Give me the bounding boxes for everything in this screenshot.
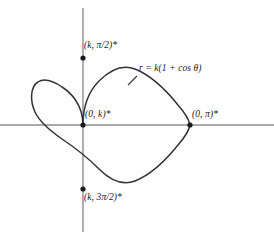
point-cusp-marker — [80, 122, 85, 127]
label-curve-equation: r = k(1 + cos θ) — [139, 64, 202, 74]
label-point-right: (0, π)* — [192, 110, 218, 120]
equation-leader-line — [128, 76, 137, 85]
figure-canvas — [0, 0, 274, 241]
point-top-marker — [80, 55, 85, 60]
label-point-top: (k, π/2)* — [84, 41, 117, 51]
cardioid-figure: (k, π/2)* (0, k)* (0, π)* (k, 3π/2)* r =… — [0, 0, 274, 241]
point-right-marker — [187, 122, 192, 127]
label-point-origin: (0, k)* — [85, 110, 111, 120]
point-bottom-marker — [80, 186, 85, 191]
label-point-bottom: (k, 3π/2)* — [84, 193, 122, 203]
